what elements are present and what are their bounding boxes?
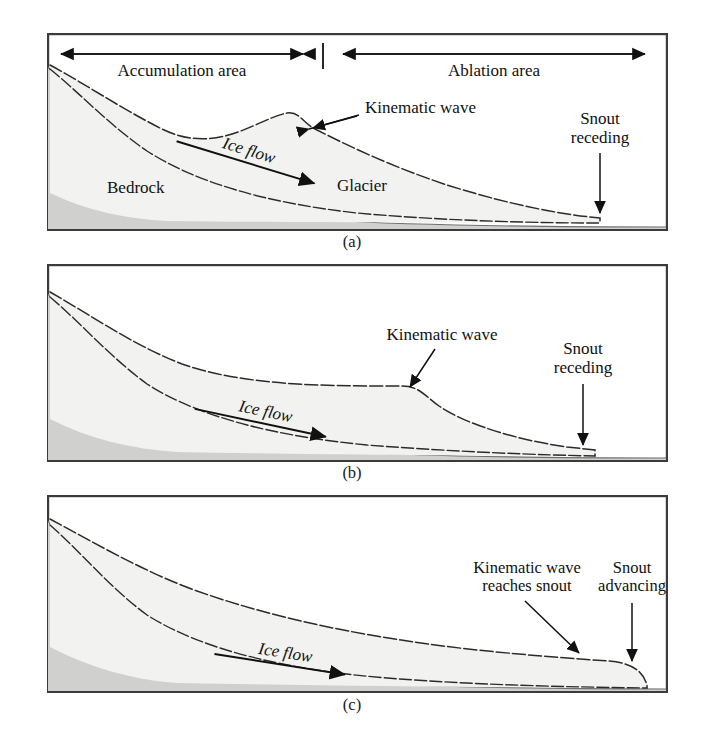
bedrock-label-a: Bedrock xyxy=(107,178,165,197)
kinematic-wave-label-a: Kinematic wave xyxy=(365,98,476,117)
panel-a: Accumulation area Ablation area Ice flow… xyxy=(47,33,668,231)
glacier-body-a xyxy=(50,65,600,223)
kinematic-wave-leader-b xyxy=(410,349,435,387)
snout-label-b-line2: receding xyxy=(554,358,613,377)
glacier-body-c xyxy=(50,519,647,688)
snout-label-a-line1: Snout xyxy=(580,109,620,128)
glacier-kinematic-wave-figure: Accumulation area Ablation area Ice flow… xyxy=(0,0,704,746)
panel-b-caption: (b) xyxy=(0,465,704,482)
glacier-label-a: Glacier xyxy=(337,176,387,195)
panel-b: Ice flow Kinematic wave Snout receding xyxy=(47,264,668,462)
ablation-area-label: Ablation area xyxy=(448,61,540,80)
snout-label-a-line2: receding xyxy=(571,128,630,147)
kinematic-wave-label-c-line2: reaches snout xyxy=(482,576,572,595)
kinematic-wave-label-c-line1: Kinematic wave xyxy=(473,558,581,577)
snout-label-b-line1: Snout xyxy=(563,339,603,358)
accumulation-area-label: Accumulation area xyxy=(118,61,247,80)
snout-label-c-line2: advancing xyxy=(598,576,666,595)
glacier-body-b xyxy=(50,292,595,456)
kinematic-wave-leader-c xyxy=(525,601,579,653)
snout-label-c-line1: Snout xyxy=(613,558,652,577)
kinematic-wave-label-b: Kinematic wave xyxy=(387,325,498,344)
panel-c: Ice flow Kinematic wave reaches snout Sn… xyxy=(47,495,668,693)
panel-c-caption: (c) xyxy=(0,697,704,714)
kinematic-wave-leader-arrow-a xyxy=(313,115,359,128)
panel-a-caption: (a) xyxy=(0,234,704,251)
